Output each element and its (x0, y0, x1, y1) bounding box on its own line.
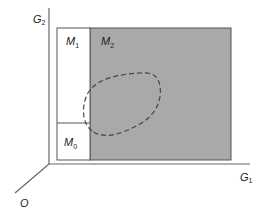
o-axis (15, 164, 49, 193)
g1-label: G1 (240, 171, 253, 184)
region-m1-column (57, 28, 90, 160)
diagram-canvas: G2 G1 O M1 M2 M0 (0, 0, 266, 212)
o-label: O (20, 197, 29, 209)
g2-label: G2 (33, 13, 46, 26)
